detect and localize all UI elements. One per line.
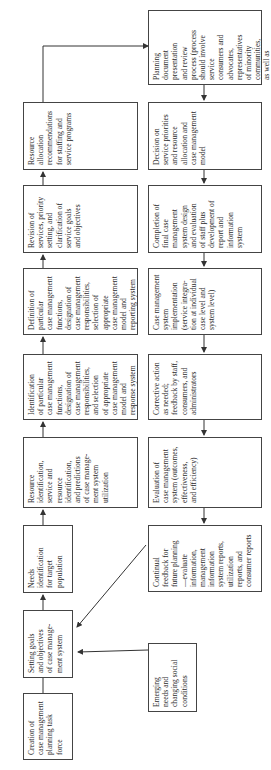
box-definition-functions: Definition of particular case management…	[23, 268, 138, 335]
box-setting-goals: Setting goals and objectives of case man…	[23, 610, 73, 678]
box-evaluation: Evaluation of case management system (ou…	[148, 437, 262, 508]
box-identification-functions: Identification of particular case manage…	[23, 354, 138, 420]
box-creation-task-force: Creation of case management planning tas…	[23, 693, 73, 760]
box-corrective-action: Corrective action as needed; feedback by…	[148, 354, 262, 420]
box-revision-services: Revision of services, priority setting, …	[23, 185, 138, 253]
box-resource-allocation: Resource allocation recommendations for …	[23, 102, 138, 170]
box-needs-identification: Needs identification for target populati…	[23, 525, 73, 593]
box-completion-design: Completion of final case management syst…	[148, 185, 262, 253]
box-resource-identification: Resource identification, service and res…	[23, 437, 138, 508]
box-emerging-needs: Emerging needs and changing social condi…	[148, 643, 197, 712]
box-decision-priorities: Decision on service priorities and resou…	[148, 102, 262, 170]
box-continual-feedback: Continual feedback for future planning —…	[148, 525, 262, 592]
box-planning-document: Planning document presentation and revie…	[148, 10, 262, 85]
box-system-implementation: Case management system implementation (s…	[148, 268, 262, 335]
flowchart-canvas: Creation of case management planning tas…	[0, 0, 271, 770]
